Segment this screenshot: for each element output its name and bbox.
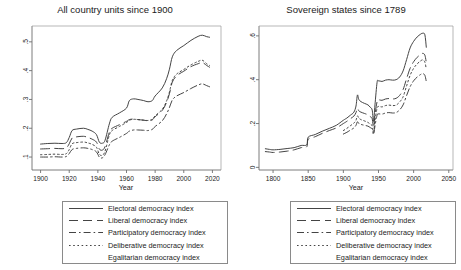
x-tick-label: 1920 (62, 175, 77, 182)
legend-line-sample (295, 252, 333, 263)
legend-line-sample (295, 240, 333, 251)
legend-line-sample (67, 240, 105, 251)
legend-left: Electoral democracy indexLiberal democra… (62, 201, 228, 264)
legend-item-electoral-democracy-index[interactable]: Electoral democracy index (291, 202, 455, 214)
x-tick-label: 1940 (91, 175, 106, 182)
legend-item-electoral-democracy-index[interactable]: Electoral democracy index (63, 202, 227, 214)
legend-item-egalitarian-democracy-index[interactable]: Egalitarian democracy index (63, 252, 227, 264)
x-tick-label: 1950 (371, 175, 386, 182)
y-tick-label: .6 (249, 33, 256, 39)
legend-item-liberal-democracy-index[interactable]: Liberal democracy index (63, 214, 227, 226)
figure-root: All country units since 1900 .1.2.3.4.5 … (0, 0, 461, 270)
series-line-electoral-democracy-index (41, 35, 210, 144)
y-tick-label: .3 (22, 96, 29, 102)
series-line-deliberative-democracy-index (41, 60, 210, 155)
y-tick-label: .4 (22, 68, 29, 74)
legend-item-participatory-democracy-index[interactable]: Participatory democracy index (291, 227, 455, 239)
series-line-liberal-democracy-index (265, 53, 426, 152)
legend-item-label: Deliberative democracy index (333, 242, 432, 249)
legend-item-egalitarian-democracy-index[interactable]: Egalitarian democracy index (291, 252, 455, 264)
legend-line-sample (295, 215, 333, 226)
series-line-liberal-democracy-index (41, 63, 210, 151)
y-tick-label: .1 (22, 154, 29, 160)
x-tick-label: 2020 (205, 175, 220, 182)
x-tick-label: 1800 (266, 175, 281, 182)
x-tick-label: 2000 (406, 175, 421, 182)
x-axis-label-right: Year (349, 183, 364, 192)
plot-area-right: 0.2.4.6 180018501900195020002050 Year (231, 0, 461, 196)
y-tick-label: .4 (249, 77, 256, 83)
legend-item-label: Liberal democracy index (105, 217, 187, 224)
legend-line-sample (295, 227, 333, 238)
x-ticks-left: 1900192019401960198020002020 (33, 170, 220, 182)
legend-item-label: Participatory democracy index (105, 229, 206, 236)
legend-line-sample (67, 215, 105, 226)
x-tick-label: 1900 (336, 175, 351, 182)
series-line-participatory-democracy-index (41, 84, 210, 158)
legend-item-label: Liberal democracy index (333, 217, 415, 224)
legend-line-sample (67, 203, 105, 214)
legend-item-deliberative-democracy-index[interactable]: Deliberative democracy index (291, 239, 455, 251)
plot-area-left: .1.2.3.4.5 1900192019401960198020002020 … (0, 0, 230, 196)
x-tick-label: 2000 (176, 175, 191, 182)
legend-item-liberal-democracy-index[interactable]: Liberal democracy index (291, 214, 455, 226)
panel-all-country-units: All country units since 1900 .1.2.3.4.5 … (0, 0, 230, 196)
y-ticks-left: .1.2.3.4.5 (22, 39, 32, 160)
x-tick-label: 1960 (119, 175, 134, 182)
x-tick-label: 2050 (441, 175, 456, 182)
y-tick-label: .5 (22, 39, 29, 45)
x-axis-label-left: Year (119, 183, 134, 192)
y-tick-label: 0 (249, 165, 256, 169)
series-line-participatory-democracy-index (343, 74, 426, 135)
legend-item-label: Egalitarian democracy index (333, 254, 428, 261)
plot-svg-left: .1.2.3.4.5 1900192019401960198020002020 … (0, 0, 230, 196)
x-tick-label: 1900 (33, 175, 48, 182)
legend-item-label: Electoral democracy index (105, 205, 194, 212)
plot-svg-right: 0.2.4.6 180018501900195020002050 Year (231, 0, 461, 196)
series-group-right (265, 33, 426, 152)
legend-item-label: Egalitarian democracy index (105, 254, 200, 261)
y-tick-label: .2 (22, 125, 29, 131)
panel-sovereign-states: Sovereign states since 1789 0.2.4.6 1800… (231, 0, 461, 196)
y-tick-label: .2 (249, 120, 256, 126)
legend-item-label: Deliberative democracy index (105, 242, 204, 249)
x-tick-label: 1980 (148, 175, 163, 182)
series-group-left (41, 35, 210, 158)
legend-line-sample (67, 227, 105, 238)
legend-item-deliberative-democracy-index[interactable]: Deliberative democracy index (63, 239, 227, 251)
x-tick-label: 1850 (301, 175, 316, 182)
y-ticks-right: 0.2.4.6 (249, 33, 259, 169)
legend-item-label: Participatory democracy index (333, 229, 434, 236)
legend-item-participatory-democracy-index[interactable]: Participatory democracy index (63, 227, 227, 239)
series-line-deliberative-democracy-index (343, 60, 426, 132)
legend-line-sample (295, 203, 333, 214)
legend-right: Electoral democracy indexLiberal democra… (290, 201, 456, 264)
legend-line-sample (67, 252, 105, 263)
legend-item-label: Electoral democracy index (333, 205, 422, 212)
x-ticks-right: 180018501900195020002050 (266, 170, 457, 182)
